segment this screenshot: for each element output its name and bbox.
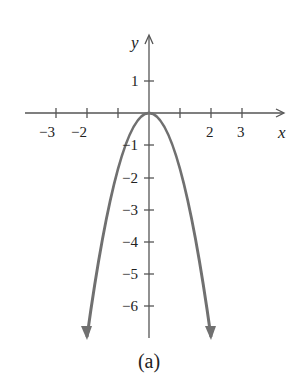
figure-caption: (a)	[0, 350, 298, 373]
x-tick-label: 2	[206, 125, 214, 140]
y-tick-label: 1	[131, 74, 139, 89]
y-axis-label: y	[131, 34, 139, 51]
x-axis-label: x	[278, 124, 286, 141]
y-tick-label: −5	[122, 267, 138, 282]
chart-canvas	[0, 0, 298, 387]
left-arrow-icon	[81, 326, 92, 340]
x-tick-label: −2	[71, 125, 87, 140]
x-tick-label: 3	[237, 125, 245, 140]
y-tick-label: −1	[122, 138, 138, 153]
y-tick-label: −6	[122, 299, 138, 314]
y-tick-label: −4	[122, 235, 138, 250]
right-arrow-icon	[205, 326, 216, 340]
y-tick-label: −3	[122, 203, 138, 218]
x-tick-label: −3	[39, 125, 55, 140]
y-tick-label: −2	[122, 171, 138, 186]
